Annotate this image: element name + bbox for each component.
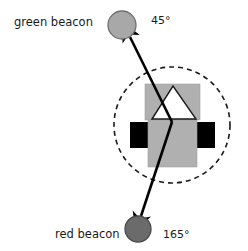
green-beacon-label: green beacon bbox=[14, 15, 93, 29]
beacon-bearing-diagram: green beacon 45° red beacon 165° bbox=[0, 0, 248, 251]
robot-wheel-left-icon bbox=[130, 122, 148, 148]
robot-lower-body bbox=[148, 120, 197, 167]
green-beacon-angle-label: 45° bbox=[151, 14, 171, 27]
green-beacon-marker bbox=[108, 11, 136, 39]
diagram-canvas: green beacon 45° red beacon 165° bbox=[0, 0, 248, 251]
red-beacon-marker bbox=[125, 216, 151, 242]
red-beacon-angle-label: 165° bbox=[163, 228, 190, 241]
red-beacon-label: red beacon bbox=[55, 227, 120, 241]
robot-wheel-right-icon bbox=[197, 122, 215, 148]
